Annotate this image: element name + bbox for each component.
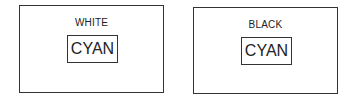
- background-label: WHITE: [20, 17, 163, 28]
- text-label-box: CYAN: [67, 35, 118, 63]
- background-label: BLACK: [194, 19, 337, 30]
- text-label-box: CYAN: [241, 37, 292, 65]
- panel-black-background: BLACK CYAN: [193, 7, 338, 94]
- panel-white-background: WHITE CYAN: [19, 5, 164, 93]
